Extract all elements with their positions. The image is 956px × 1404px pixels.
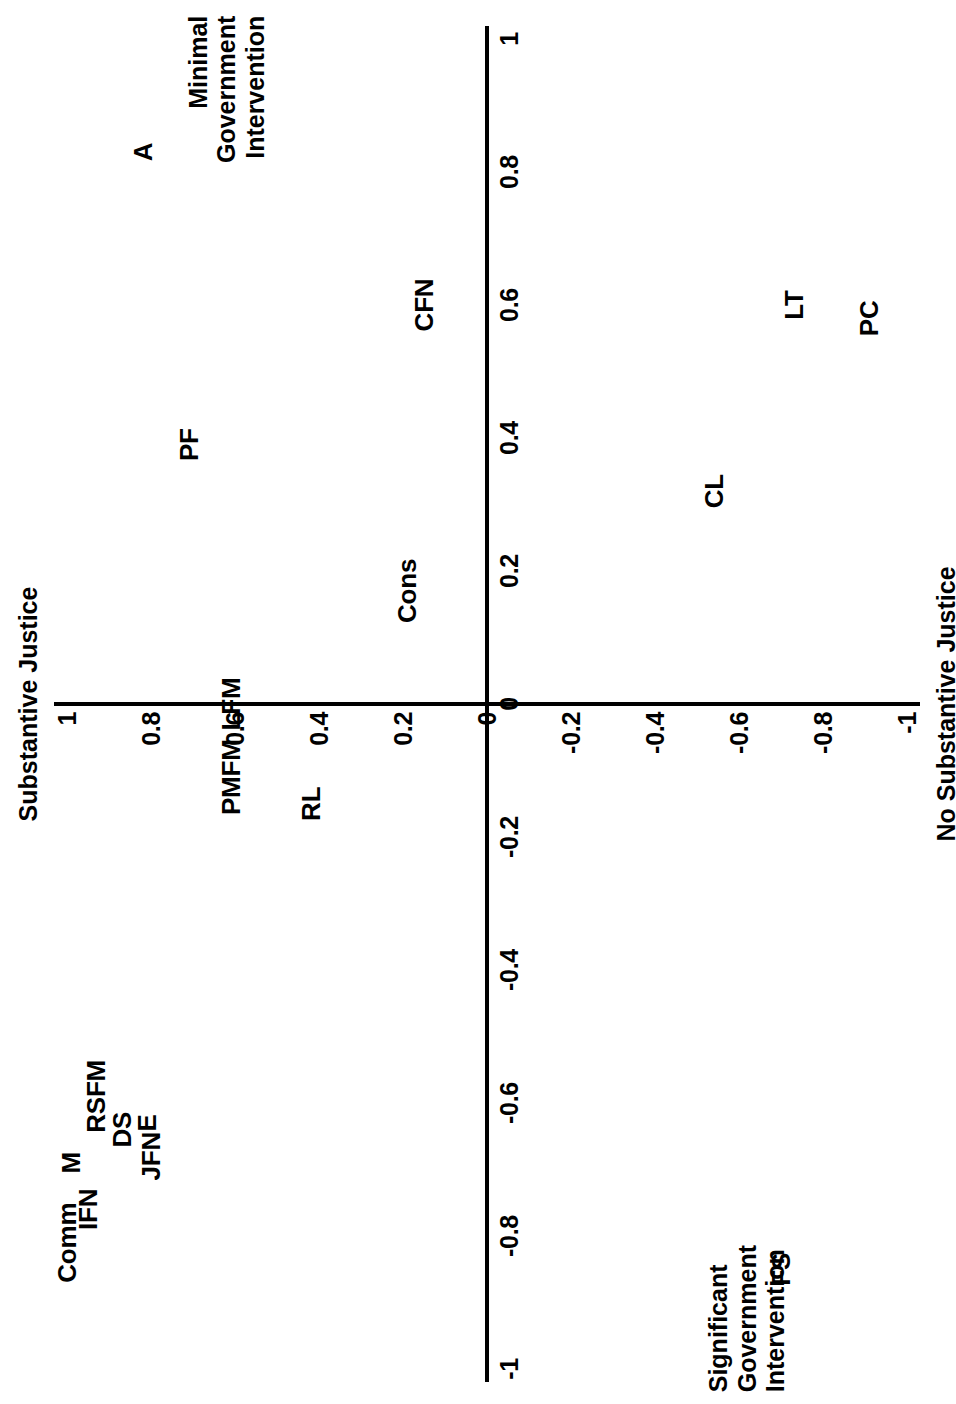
- x-tick-label: -1: [495, 1358, 524, 1380]
- y-tick-label: 0.8: [137, 712, 166, 756]
- chart-canvas: -1-0.8-0.6-0.4-0.200.20.40.60.81 10.80.6…: [0, 0, 956, 1404]
- x-tick-label: 0: [495, 697, 524, 711]
- y-tick-label: -0.2: [557, 712, 586, 756]
- data-point-label: CL: [698, 474, 729, 508]
- y-tick-label: 0.4: [305, 712, 334, 756]
- y-tick-label: -1: [893, 712, 922, 756]
- x-tick-label: 0.2: [495, 554, 524, 588]
- data-point-label: Cons: [392, 559, 423, 623]
- x-tick-label: -0.4: [495, 949, 524, 991]
- x-tick-label: -0.8: [495, 1215, 524, 1257]
- data-point-label: PF: [173, 428, 204, 461]
- axis-title-significant-government-intervention: Significant Government Intervention: [705, 1245, 791, 1392]
- x-tick-label: 0.6: [495, 288, 524, 322]
- y-tick-label-zero: 0: [473, 712, 502, 756]
- quadrant-plot-area: -1-0.8-0.6-0.4-0.200.20.40.60.81 10.80.6…: [0, 0, 956, 1404]
- y-tick-label: -0.6: [725, 712, 754, 756]
- y-tick-label: 1: [53, 712, 82, 756]
- x-tick-label: 0.4: [495, 421, 524, 455]
- data-point-label: LFM: [215, 678, 246, 731]
- y-tick-label: -0.8: [809, 712, 838, 756]
- axis-title-substantive-justice: Substantive Justice: [13, 587, 42, 822]
- data-point-label: JFN: [136, 1132, 167, 1181]
- data-point-label: DS: [106, 1112, 137, 1148]
- data-point-label: PMFM: [215, 739, 246, 815]
- data-point-label: Comm: [52, 1203, 83, 1283]
- x-tick-label: 1: [495, 32, 524, 46]
- data-point-label: PC: [854, 300, 885, 336]
- data-point-label: RL: [295, 787, 326, 821]
- y-axis-line: [54, 702, 919, 706]
- x-tick-label: -0.6: [495, 1082, 524, 1124]
- axis-title-no-substantive-justice: No Substantive Justice: [932, 566, 956, 841]
- rotated-chart-wrapper: -1-0.8-0.6-0.4-0.200.20.40.60.81 10.80.6…: [0, 0, 956, 1404]
- data-point-label: A: [127, 143, 158, 162]
- y-tick-label: -0.4: [641, 712, 670, 756]
- y-tick-label: 0.2: [389, 712, 418, 756]
- x-tick-label: -0.2: [495, 816, 524, 858]
- data-point-label: LT: [778, 290, 809, 319]
- data-point-label: CFN: [409, 279, 440, 332]
- data-point-label: M: [56, 1152, 87, 1173]
- axis-title-minimal-government-intervention: Minimal Government Intervention: [184, 16, 270, 163]
- x-tick-label: 0.8: [495, 155, 524, 189]
